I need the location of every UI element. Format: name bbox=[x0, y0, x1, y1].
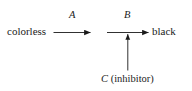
arrow-label-a: A bbox=[69, 10, 75, 21]
reaction-scheme-diagram: colorless black A B C (inhibitor) bbox=[0, 0, 192, 91]
inhibitor-qualifier: (inhibitor) bbox=[108, 73, 154, 84]
arrow-label-b: B bbox=[124, 10, 130, 21]
reactant-label: colorless bbox=[7, 26, 46, 37]
inhibitor-label: C (inhibitor) bbox=[101, 74, 154, 85]
product-label: black bbox=[152, 26, 176, 37]
inhibitor-symbol: C bbox=[101, 73, 108, 84]
arrow-layer bbox=[0, 0, 192, 91]
